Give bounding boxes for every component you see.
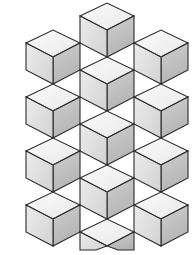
rhombus-layer [26, 3, 188, 250]
rhombille-tiling-image [0, 0, 196, 255]
figure-root [0, 0, 196, 255]
